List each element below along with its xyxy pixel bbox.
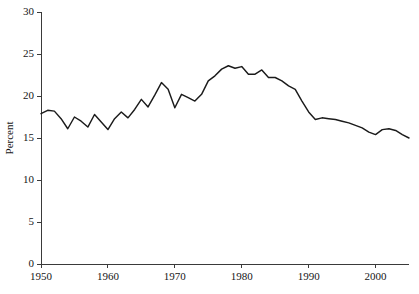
axis-titles: Percent — [3, 122, 15, 155]
y-tick-label: 15 — [23, 131, 35, 143]
y-axis-title: Percent — [3, 122, 15, 155]
y-tick-label: 20 — [23, 89, 35, 101]
plot-background — [0, 0, 419, 294]
y-tick-label: 5 — [29, 215, 35, 227]
y-tick-label: 10 — [23, 173, 35, 185]
x-tick-label: 1990 — [298, 270, 321, 282]
y-tick-label: 30 — [23, 5, 35, 17]
x-tick-label: 1970 — [164, 270, 187, 282]
x-tick-label: 2000 — [365, 270, 388, 282]
x-tick-label: 1980 — [231, 270, 254, 282]
chart-container: 051015202530 195019601970198019902000 Pe… — [0, 0, 419, 294]
y-tick-label: 25 — [23, 47, 35, 59]
x-tick-label: 1960 — [97, 270, 120, 282]
line-chart: 051015202530 195019601970198019902000 Pe… — [0, 0, 419, 294]
y-tick-label: 0 — [29, 257, 35, 269]
x-tick-label: 1950 — [30, 270, 53, 282]
